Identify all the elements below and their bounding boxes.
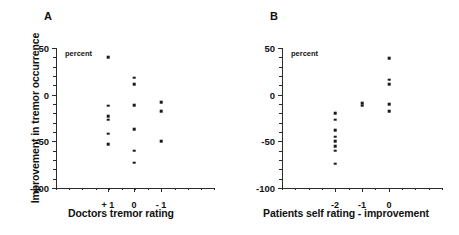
y-tick--50 <box>278 141 283 142</box>
panel-a-plot-area: percent 500-50-100+ 10- 1 <box>56 48 214 188</box>
y-tick--70 <box>279 160 282 161</box>
x-tick-minor-3 <box>96 188 97 190</box>
data-point <box>133 104 136 107</box>
data-point <box>388 78 391 81</box>
x-tick-minor-11 <box>429 188 430 190</box>
data-point <box>334 149 337 152</box>
y-tick--90 <box>53 179 56 180</box>
data-point <box>107 133 110 136</box>
panel-a-units-annotation: percent <box>65 49 92 58</box>
data-point <box>334 119 337 122</box>
data-point <box>133 77 136 80</box>
x-tick-minor-12 <box>214 188 215 190</box>
panel-a: A percent 500-50-100+ 10- 1 Doctors trem… <box>0 0 230 235</box>
x-tick-- 1 <box>161 188 162 192</box>
panel-b-x-axis-title: Patients self rating - improvement <box>231 207 459 219</box>
x-tick-minor-11 <box>201 188 202 190</box>
y-tick-30 <box>53 67 56 68</box>
y-tick--20 <box>279 113 282 114</box>
data-point <box>388 57 391 60</box>
data-point <box>133 128 136 131</box>
y-tick--30 <box>279 123 282 124</box>
y-tick--20 <box>53 113 56 114</box>
y-tick--30 <box>53 123 56 124</box>
y-tick--40 <box>53 132 56 133</box>
y-tick-30 <box>279 67 282 68</box>
data-point <box>388 83 391 86</box>
x-tick-0 <box>134 188 135 192</box>
y-tick-10 <box>53 85 56 86</box>
panel-b: B percent 500-50-100-2-10 Patients self … <box>229 0 459 235</box>
x-tick-minor-1 <box>295 188 296 190</box>
data-point <box>133 162 136 165</box>
x-tick-minor-2 <box>309 188 310 190</box>
x-tick-minor-0 <box>56 188 57 190</box>
data-point <box>361 105 364 108</box>
x-tick--1 <box>362 188 363 192</box>
y-tick-0 <box>52 95 57 96</box>
panel-a-x-axis-title: Doctors tremor rating <box>6 207 236 219</box>
y-tick-label-0: 0 <box>270 89 275 100</box>
y-tick-label--50: -50 <box>35 136 49 147</box>
data-point <box>107 115 110 118</box>
y-tick-50 <box>52 48 57 49</box>
data-point <box>107 143 110 146</box>
x-tick-minor-1 <box>69 188 70 190</box>
y-tick-label-50: 50 <box>38 43 49 54</box>
y-tick--90 <box>279 179 282 180</box>
data-point <box>133 149 136 152</box>
panel-b-letter: B <box>270 10 278 22</box>
data-point <box>388 103 391 106</box>
panel-b-units-annotation: percent <box>291 49 318 58</box>
y-tick--50 <box>52 141 57 142</box>
y-tick--80 <box>279 169 282 170</box>
y-tick-20 <box>53 76 56 77</box>
y-tick-0 <box>278 95 283 96</box>
x-tick-minor-9 <box>175 188 176 190</box>
y-tick--40 <box>279 132 282 133</box>
x-tick-minor-3 <box>322 188 323 190</box>
y-tick-40 <box>279 57 282 58</box>
panel-a-y-axis-line <box>56 48 57 189</box>
data-point <box>334 140 337 143</box>
y-tick-20 <box>279 76 282 77</box>
panel-b-y-axis-line <box>282 48 283 189</box>
x-tick-minor-7 <box>148 188 149 190</box>
data-point <box>133 83 136 86</box>
data-point <box>334 112 337 115</box>
y-tick--70 <box>53 160 56 161</box>
x-tick-minor-2 <box>82 188 83 190</box>
panel-a-letter: A <box>44 10 52 22</box>
data-point <box>388 110 391 113</box>
x-tick-+ 1 <box>108 188 109 192</box>
data-point <box>107 105 110 108</box>
data-point <box>334 129 337 132</box>
data-point <box>107 119 110 122</box>
y-tick-label-0: 0 <box>44 89 49 100</box>
x-tick-minor-9 <box>402 188 403 190</box>
y-tick--60 <box>53 151 56 152</box>
y-tick-label--100: -100 <box>256 183 275 194</box>
y-tick-40 <box>53 57 56 58</box>
x-tick-minor-6 <box>135 188 136 190</box>
x-tick-minor-10 <box>188 188 189 190</box>
figure-container: Improvement in tremor occurrence A perce… <box>0 0 459 235</box>
x-tick-minor-7 <box>375 188 376 190</box>
x-tick-minor-5 <box>349 188 350 190</box>
x-tick-minor-0 <box>282 188 283 190</box>
data-point <box>107 56 110 59</box>
y-tick--10 <box>53 104 56 105</box>
y-tick-label-50: 50 <box>264 43 275 54</box>
y-tick-50 <box>278 48 283 49</box>
panel-b-plot-area: percent 500-50-100-2-10 <box>282 48 442 188</box>
y-tick--60 <box>279 151 282 152</box>
y-tick-label--100: -100 <box>30 183 49 194</box>
data-point <box>334 135 337 138</box>
data-point <box>334 162 337 165</box>
data-point <box>160 140 163 143</box>
x-tick-minor-12 <box>442 188 443 190</box>
y-tick--80 <box>53 169 56 170</box>
x-tick-minor-10 <box>415 188 416 190</box>
data-point <box>160 110 163 113</box>
x-tick--2 <box>335 188 336 192</box>
